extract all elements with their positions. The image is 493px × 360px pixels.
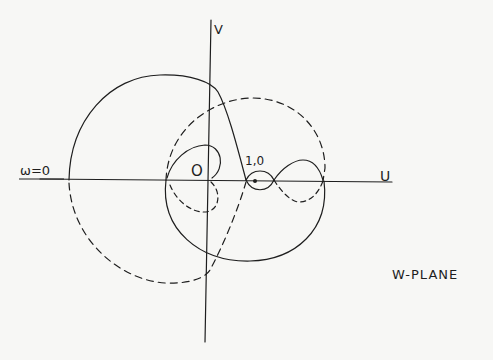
outer-dashed-arc [69,182,246,283]
origin-label: O [191,162,203,180]
critical-point-dot [253,179,257,183]
right-lobe-solid [274,160,323,180]
inner-dashed-arc [166,98,325,181]
outer-solid-arc [69,75,246,180]
u-axis [40,179,392,182]
w-plane-diagram: V U ω=0 O 1,0 W-PLANE [0,0,493,360]
omega-zero-label: ω=0 [20,163,50,178]
critical-lens-upper [246,171,274,180]
right-lobe-dashed [274,180,323,202]
diagram-title: W-PLANE [392,267,458,282]
inner-solid-loop [165,180,324,261]
critical-point-label: 1,0 [245,154,264,168]
origin-dashed-loop [170,182,218,212]
v-axis-label: V [214,22,223,37]
u-axis-label: U [380,168,390,184]
